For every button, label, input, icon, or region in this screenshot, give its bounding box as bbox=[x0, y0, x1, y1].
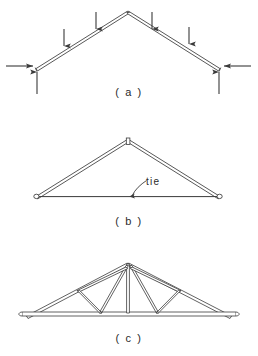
panel-c-complete-truss: ( c ) bbox=[0, 246, 258, 356]
left-rafter bbox=[36, 11, 129, 71]
tie-leader-line bbox=[132, 181, 146, 196]
right-rafter bbox=[127, 11, 220, 71]
king-post bbox=[127, 264, 130, 313]
right-hanger bbox=[156, 290, 181, 313]
left-pin-joint bbox=[34, 194, 39, 198]
panel-b-triangular-truss-with-tie: tie ( b ) bbox=[0, 118, 258, 246]
panel-a-rafters-with-loads: ( a ) bbox=[0, 0, 258, 118]
right-rafter-b bbox=[127, 140, 220, 199]
panel-a-drawing bbox=[0, 0, 258, 118]
figure-roof-truss-development: ( a ) tie ( b ) bbox=[0, 0, 258, 356]
left-hanger bbox=[77, 290, 102, 313]
right-pin-joint bbox=[217, 194, 222, 198]
tie-annotation-label: tie bbox=[146, 176, 160, 187]
caption-panel-a: ( a ) bbox=[0, 86, 258, 98]
ridge-joint-b bbox=[126, 138, 130, 144]
caption-panel-b: ( b ) bbox=[0, 215, 258, 227]
caption-panel-c: ( c ) bbox=[0, 332, 258, 344]
left-rafter-b bbox=[36, 140, 129, 199]
